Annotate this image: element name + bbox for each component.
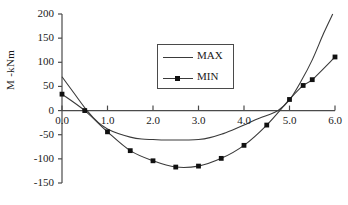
legend-label-min: MIN xyxy=(197,70,218,82)
legend: MAX MIN xyxy=(157,44,234,89)
data-point-marker xyxy=(287,97,292,102)
y-tick-neg50: -50 xyxy=(18,128,54,140)
x-tick-1.0: 1.0 xyxy=(95,114,121,126)
legend-label-max: MAX xyxy=(197,49,223,61)
data-point-marker xyxy=(105,129,110,134)
data-point-marker xyxy=(242,143,247,148)
y-tick-100: 100 xyxy=(18,55,54,67)
x-tick-6.0: 6.0 xyxy=(322,114,348,126)
data-point-marker xyxy=(151,158,156,163)
legend-marker-square-min xyxy=(175,76,180,81)
x-tick-5.0: 5.0 xyxy=(277,114,303,126)
moment-envelope-chart: M -kNm 200150100500-50-100-150 0.01.02.0… xyxy=(0,0,348,205)
x-tick-2.0: 2.0 xyxy=(140,114,166,126)
x-tick-4.0: 4.0 xyxy=(231,114,257,126)
data-point-marker xyxy=(310,77,315,82)
y-tick-50: 50 xyxy=(18,79,54,91)
x-tick-0.0: 0.0 xyxy=(49,114,75,126)
y-tick-150: 150 xyxy=(18,31,54,43)
data-point-marker xyxy=(128,148,133,153)
data-point-marker xyxy=(82,108,87,113)
legend-line-swatch-max xyxy=(163,57,193,58)
data-point-marker xyxy=(264,123,269,128)
y-tick-neg150: -150 xyxy=(18,176,54,188)
y-tick-200: 200 xyxy=(18,7,54,19)
legend-item-min: MIN xyxy=(158,67,235,89)
data-point-marker xyxy=(196,164,201,169)
y-tick-neg100: -100 xyxy=(18,152,54,164)
data-point-marker xyxy=(60,92,65,97)
data-point-marker xyxy=(219,156,224,161)
data-point-marker xyxy=(301,83,306,88)
data-point-marker xyxy=(173,165,178,170)
legend-item-max: MAX xyxy=(158,46,235,68)
legend-line-swatch-min xyxy=(163,78,193,79)
data-point-marker xyxy=(333,55,338,60)
x-tick-3.0: 3.0 xyxy=(186,114,212,126)
